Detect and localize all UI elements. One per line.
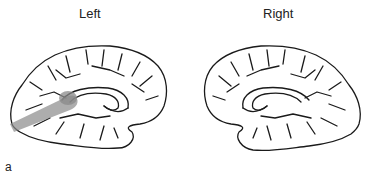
- right-hemisphere-diagram: [185, 0, 371, 179]
- left-hemisphere-diagram: [0, 0, 185, 179]
- highlighted-tract: [10, 91, 78, 132]
